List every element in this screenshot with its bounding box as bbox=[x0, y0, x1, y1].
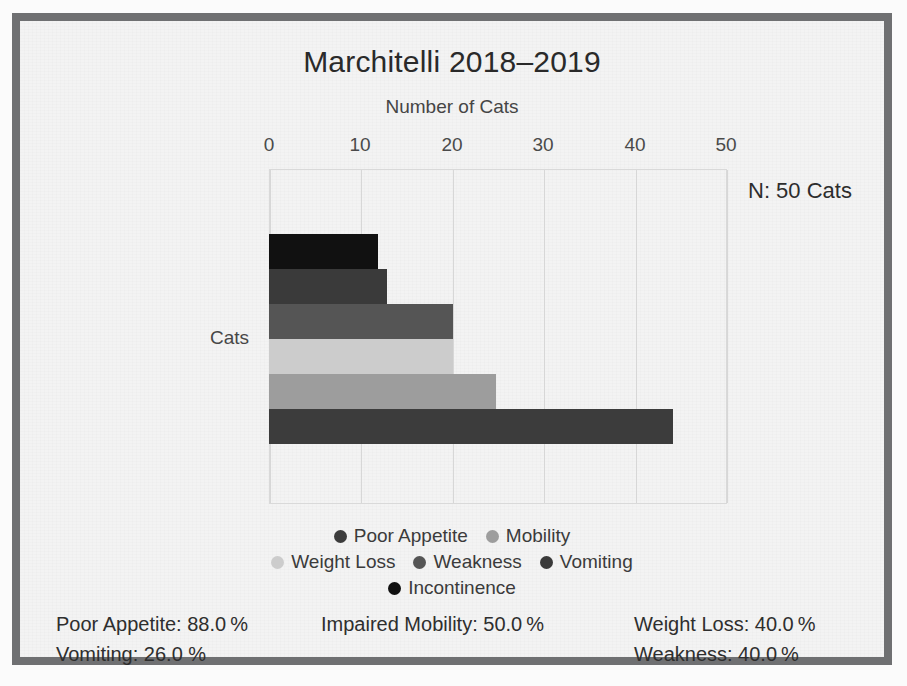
chart-legend: Poor AppetiteMobilityWeight LossWeakness… bbox=[20, 523, 884, 601]
x-tick-label: 40 bbox=[624, 134, 645, 156]
statistic-value: Impaired Mobility: 50.0 % bbox=[321, 613, 544, 636]
legend-item-vomiting[interactable]: Vomiting bbox=[540, 551, 633, 573]
legend-item-label: Weakness bbox=[433, 551, 521, 573]
legend-item-weight-loss[interactable]: Weight Loss bbox=[271, 551, 395, 573]
bar-mobility bbox=[269, 374, 496, 409]
y-axis-category-label: Cats bbox=[39, 327, 269, 349]
legend-item-label: Mobility bbox=[506, 525, 570, 547]
statistic-value: Weakness: 40.0 % bbox=[634, 643, 799, 666]
statistics-footer: Poor Appetite: 88.0 %Impaired Mobility: … bbox=[56, 613, 874, 673]
legend-marker-dot-icon bbox=[334, 530, 347, 543]
x-tick-label: 20 bbox=[441, 134, 462, 156]
statistic-value: Weight Loss: 40.0 % bbox=[634, 613, 816, 636]
x-tick-label: 10 bbox=[349, 134, 370, 156]
legend-item-mobility[interactable]: Mobility bbox=[486, 525, 570, 547]
legend-row: Poor AppetiteMobility bbox=[20, 523, 884, 549]
legend-marker-dot-icon bbox=[388, 582, 401, 595]
legend-marker-dot-icon bbox=[540, 556, 553, 569]
figure-canvas: Marchitelli 2018–2019 Number of Cats 010… bbox=[0, 0, 907, 686]
legend-item-label: Poor Appetite bbox=[354, 525, 468, 547]
bar-weight-loss bbox=[269, 339, 453, 374]
sample-size-annotation: N: 50 Cats bbox=[748, 178, 852, 204]
bar-incontinence bbox=[269, 234, 378, 269]
legend-marker-dot-icon bbox=[413, 556, 426, 569]
statistics-row: Poor Appetite: 88.0 %Impaired Mobility: … bbox=[56, 613, 874, 643]
legend-item-label: Incontinence bbox=[408, 577, 516, 599]
bar-poor-appetite bbox=[269, 409, 673, 444]
legend-marker-dot-icon bbox=[271, 556, 284, 569]
bars-layer bbox=[269, 234, 727, 446]
figure-frame: Marchitelli 2018–2019 Number of Cats 010… bbox=[12, 13, 892, 665]
legend-item-weakness[interactable]: Weakness bbox=[413, 551, 521, 573]
legend-item-poor-appetite[interactable]: Poor Appetite bbox=[334, 525, 468, 547]
legend-row: Incontinence bbox=[20, 575, 884, 601]
statistics-row: Vomiting: 26.0 %Weakness: 40.0 % bbox=[56, 643, 874, 673]
legend-item-label: Weight Loss bbox=[291, 551, 395, 573]
gridline bbox=[727, 170, 728, 503]
legend-item-label: Vomiting bbox=[560, 551, 633, 573]
x-tick-label: 30 bbox=[532, 134, 553, 156]
bar-vomiting bbox=[269, 269, 387, 304]
statistic-value: Vomiting: 26.0 % bbox=[56, 643, 206, 666]
legend-row: Weight LossWeaknessVomiting bbox=[20, 549, 884, 575]
x-tick-label: 50 bbox=[715, 134, 736, 156]
legend-item-incontinence[interactable]: Incontinence bbox=[388, 577, 516, 599]
legend-marker-dot-icon bbox=[486, 530, 499, 543]
bar-weakness bbox=[269, 304, 453, 339]
statistic-value: Poor Appetite: 88.0 % bbox=[56, 613, 248, 636]
